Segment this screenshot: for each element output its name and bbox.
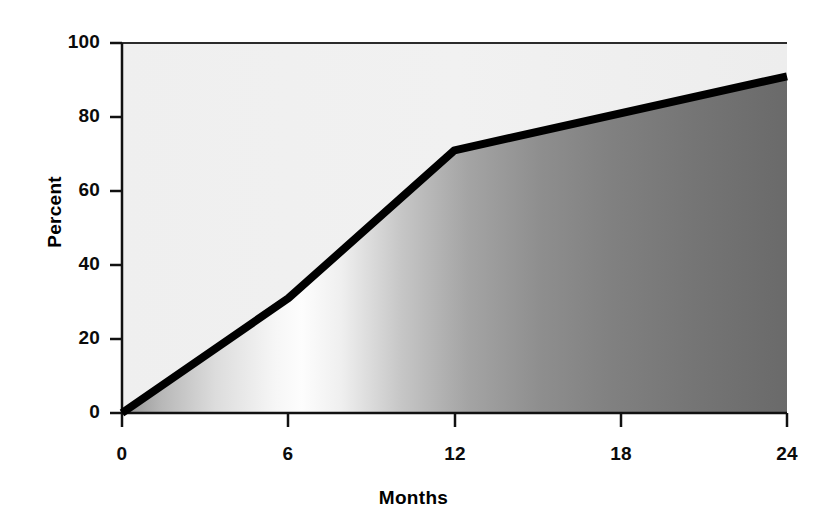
y-axis-title: Percent bbox=[44, 176, 66, 248]
x-tick-marks bbox=[122, 413, 787, 427]
x-tick-label-18: 18 bbox=[591, 443, 651, 465]
y-tick-label-0: 0 bbox=[38, 401, 100, 423]
y-tick-label-80: 80 bbox=[38, 105, 100, 127]
y-tick-marks bbox=[110, 43, 122, 413]
x-tick-label-6: 6 bbox=[258, 443, 318, 465]
x-axis-title: Months bbox=[0, 487, 827, 509]
y-tick-label-20: 20 bbox=[38, 327, 100, 349]
y-tick-label-100: 100 bbox=[38, 31, 100, 53]
x-tick-label-0: 0 bbox=[92, 443, 152, 465]
x-tick-label-12: 12 bbox=[425, 443, 485, 465]
x-tick-label-24: 24 bbox=[757, 443, 817, 465]
line-area-chart: 100 80 60 40 20 0 0 6 12 18 24 Percent M… bbox=[0, 0, 827, 531]
y-axis-title-wrapper: Percent bbox=[18, 176, 48, 296]
